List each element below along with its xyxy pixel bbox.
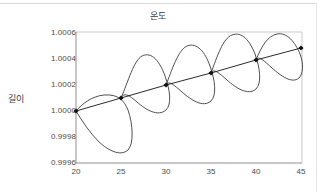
chart-container: 온도 길이 1.0006 1.0004 1.0002 1.0000 0.9998… xyxy=(0,0,317,192)
series-hysteresis-loop-segment-2 xyxy=(121,55,170,113)
series-hysteresis-loop-segment-5 xyxy=(256,34,303,80)
series-mean-trend-line xyxy=(76,48,301,111)
series-hysteresis-loop-segment-1 xyxy=(76,95,132,153)
data-point-marker xyxy=(298,45,303,50)
series-hysteresis-loop-segment-4 xyxy=(211,34,260,92)
plot-area xyxy=(0,0,317,192)
